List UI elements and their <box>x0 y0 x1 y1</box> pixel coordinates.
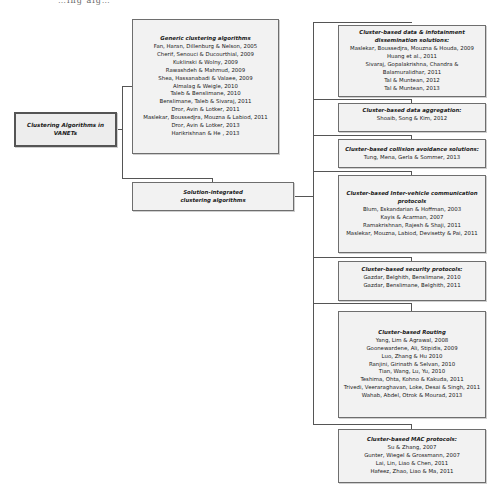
branch-routing-drop <box>411 303 412 311</box>
generic-ref: Harikrishnan & He , 2013 <box>135 130 276 138</box>
category-ref: Lai, Lin, Liao & Chen, 2011 <box>341 460 483 468</box>
category-ref: Kayis & Acarman, 2007 <box>341 214 483 222</box>
category-ref: Tal & Muntean, 2013 <box>345 85 479 93</box>
category-ref: Goonewardene, Ali, Stipidis, 2009 <box>340 345 484 353</box>
category-ref: Maslekar, Mouzna, Labiod, Devisetty & Pa… <box>341 230 483 238</box>
category-security: Cluster-based security protocols: Gazdar… <box>338 261 486 301</box>
category-ref: Ramakrishnan, Rajesh & Shaji, 2011 <box>341 222 483 230</box>
connector-to-solution <box>122 178 213 179</box>
category-infotainment: Cluster-based data & infotainment dissem… <box>338 25 486 97</box>
branch-infotainment <box>313 22 412 23</box>
category-ref: Hafeez, Zhao, Liao & Ma, 2011 <box>341 468 483 476</box>
branch-collision <box>313 135 412 136</box>
generic-ref: Kuklinski & Wolny, 2009 <box>135 59 276 67</box>
root-node: Clustering Algorithms in VANETs <box>14 112 117 147</box>
category-ref: Tal & Muntean, 2012 <box>345 77 479 85</box>
branch-mac <box>313 424 412 425</box>
category-ref: Gazdar, Belghith, Benslimane, 2010 <box>341 274 483 282</box>
generic-ref: Almalag & Weigle, 2010 <box>135 83 276 91</box>
connector-to-generic <box>122 86 132 87</box>
generic-node: Generic clustering algorithms Fan, Haran… <box>132 19 279 154</box>
category-title: Cluster-based collision avoidance soluti… <box>341 146 483 154</box>
category-title: Cluster-based MAC protocols: <box>341 436 483 444</box>
category-title: Cluster-based security protocols: <box>341 266 483 274</box>
connector-right-spine-lower <box>313 177 314 377</box>
category-ref: Blum, Eskandarian & Hoffman, 2003 <box>341 206 483 214</box>
category-intervehicle: Cluster-based Inter-vehicle communicatio… <box>338 175 486 253</box>
category-title: Cluster-based Inter-vehicle communicatio… <box>341 190 483 206</box>
generic-ref: Taleb & Benslimane, 2010 <box>135 90 276 98</box>
category-ref: Tung, Mena, Gerla & Sommer, 2013 <box>341 154 483 162</box>
category-ref: Teshima, Ohta, Kohno & Kakuda, 2011 <box>340 376 484 384</box>
generic-ref: Fan, Haran, Dillenburg & Nelson, 2005 <box>135 43 276 51</box>
solution-node: Solution-integrated clustering algorithm… <box>132 182 294 211</box>
right-spine-end <box>313 377 314 425</box>
category-aggregation: Cluster-based data aggregation: Shoaib, … <box>338 103 486 132</box>
category-ref: Ranjini, Girinath & Selvan, 2010 <box>340 361 484 369</box>
generic-title: Generic clustering algorithms <box>135 35 276 43</box>
category-ref: Luo, Zhang & Hu 2010 <box>340 353 484 361</box>
category-ref: Shoaib, Song & Kim, 2012 <box>341 115 483 123</box>
generic-ref: Dror, Avin & Lotker, 2013 <box>135 122 276 130</box>
branch-security <box>313 257 412 258</box>
caption-fragment: …ing alg… <box>58 0 111 5</box>
category-ref: Gunter, Wiegel & Grossmann, 2007 <box>341 452 483 460</box>
category-ref: Gazdar, Benslimane, Belghith, 2011 <box>341 282 483 290</box>
category-routing: Cluster-based Routing Yang, Lim & Agrawa… <box>338 311 486 418</box>
category-ref: Su & Zhang, 2007 <box>341 444 483 452</box>
generic-ref: Maslekar, Boussedjra, Mouzna & Labiod, 2… <box>135 114 276 122</box>
root-label: Clustering Algorithms in VANETs <box>18 122 113 138</box>
category-ref: Sivaraj, Gopalakrishna, Chandra & Balamu… <box>345 61 479 77</box>
connector-root-spine <box>122 86 123 179</box>
connector-solution-out <box>294 196 313 197</box>
diagram-canvas: …ing alg… Clustering Algorithms in VANET… <box>0 0 502 498</box>
generic-ref: Shea, Hassanabadi & Valaee, 2009 <box>135 75 276 83</box>
category-ref: Trivedi, Veeraraghavan, Loke, Desai & Si… <box>340 384 484 392</box>
category-ref: Huang et al., 2011 <box>345 53 479 61</box>
solution-label: Solution-integrated clustering algorithm… <box>173 189 253 205</box>
category-ref: Wahab, Abdel, Otrok & Mourad, 2013 <box>340 392 484 400</box>
generic-ref: Rawashdeh & Mahmud, 2009 <box>135 67 276 75</box>
branch-aggregation <box>313 99 412 100</box>
category-title: Cluster-based Routing <box>340 329 484 337</box>
branch-intervehicle <box>313 171 412 172</box>
generic-ref: Cherif, Senouci & Ducourthial, 2009 <box>135 51 276 59</box>
generic-ref: Dror, Avin & Lotker, 2011 <box>135 106 276 114</box>
branch-routing <box>313 303 412 304</box>
category-mac: Cluster-based MAC protocols: Su & Zhang,… <box>338 429 486 483</box>
category-collision: Cluster-based collision avoidance soluti… <box>338 139 486 168</box>
category-ref: Tian, Wang, Lu, Yu, 2010 <box>340 368 484 376</box>
generic-ref: Benslimane, Taleb & Sivaraj, 2011 <box>135 98 276 106</box>
category-title: Cluster-based data & infotainment dissem… <box>345 29 479 45</box>
category-ref: Maslekar, Boussedjra, Mouzna & Houda, 20… <box>345 45 479 53</box>
category-title: Cluster-based data aggregation: <box>341 107 483 115</box>
category-ref: Yang, Lim & Agrawal, 2008 <box>340 337 484 345</box>
